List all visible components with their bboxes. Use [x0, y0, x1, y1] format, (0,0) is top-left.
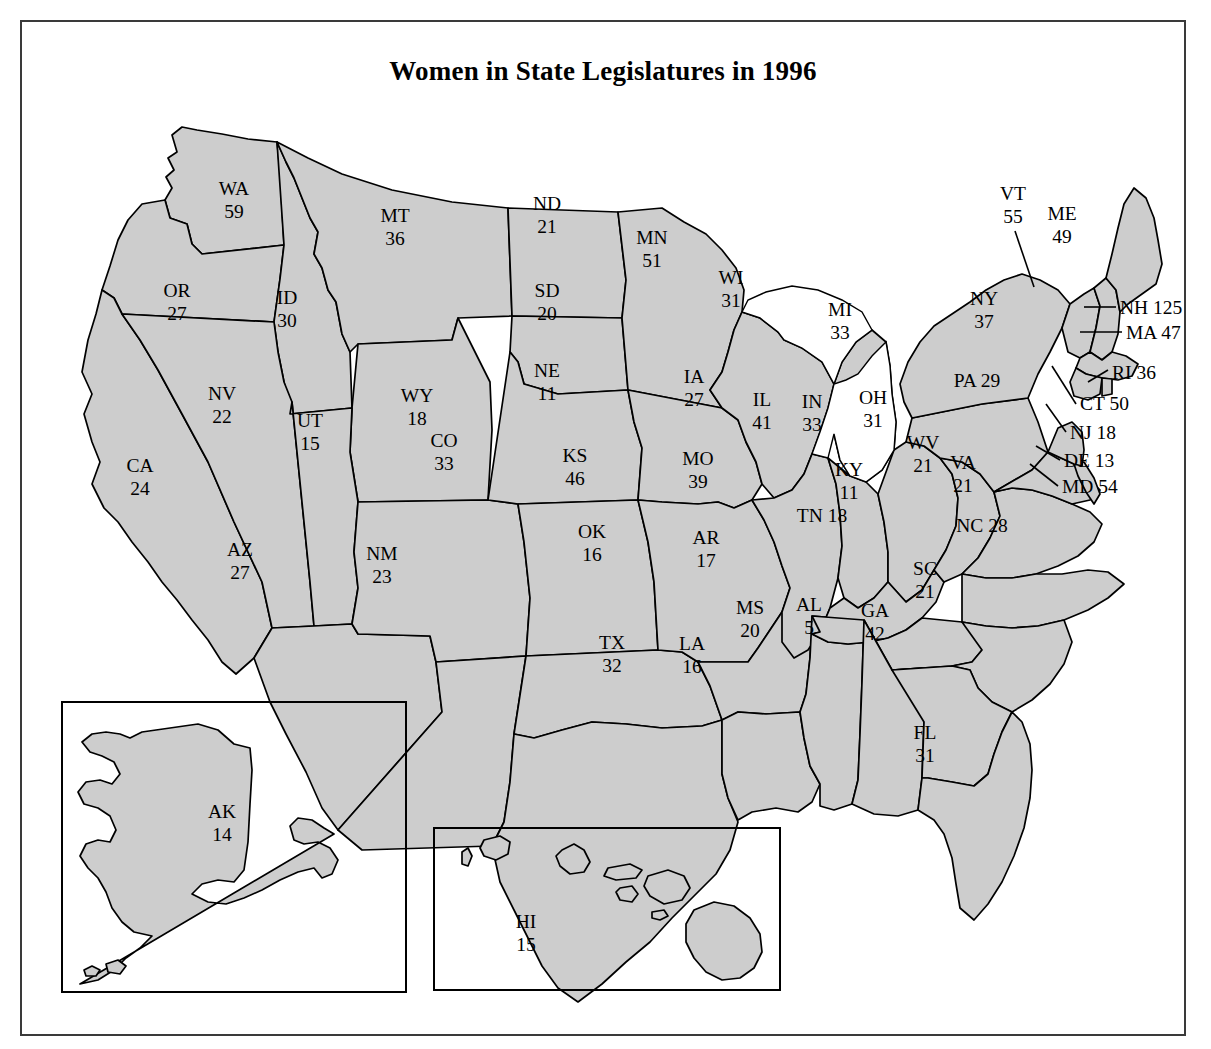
label-LA-code: LA — [679, 633, 705, 654]
label-NM-value: 23 — [372, 566, 392, 587]
label-OH-value: 31 — [863, 410, 883, 431]
label-MO-code: MO — [682, 448, 713, 469]
label-IN-code: IN — [802, 391, 823, 412]
label-CO-code: CO — [430, 430, 457, 451]
label-MT-value: 36 — [385, 228, 405, 249]
label-AR-code: AR — [692, 527, 719, 548]
label-IA-value: 27 — [684, 389, 704, 410]
label-MO-value: 39 — [688, 471, 708, 492]
state-AK[interactable] — [78, 724, 338, 984]
label-DE: DE 13 — [1064, 450, 1114, 471]
label-RI: RI 36 — [1112, 362, 1156, 383]
state-NC[interactable] — [962, 570, 1124, 628]
label-OR-code: OR — [163, 280, 190, 301]
label-NE-code: NE — [534, 360, 560, 381]
label-GA-code: GA — [861, 600, 889, 621]
label-CO-value: 33 — [434, 453, 454, 474]
island-hawaii — [686, 902, 762, 980]
label-KY-value: 11 — [840, 482, 859, 503]
label-SD-code: SD — [535, 280, 560, 301]
label-NM-code: NM — [366, 543, 397, 564]
label-FL-value: 31 — [915, 745, 935, 766]
label-AZ-code: AZ — [227, 539, 253, 560]
label-WA-code: WA — [219, 178, 249, 199]
label-CA-code: CA — [126, 455, 153, 476]
label-WY-code: WY — [401, 385, 434, 406]
label-CA-value: 24 — [130, 478, 150, 499]
label-LA-value: 16 — [682, 656, 702, 677]
label-FL-code: FL — [914, 722, 937, 743]
label-MN-value: 51 — [642, 250, 662, 271]
label-WY-value: 18 — [407, 408, 427, 429]
state-SD[interactable] — [510, 316, 628, 394]
label-NV-code: NV — [208, 383, 236, 404]
label-WA-value: 59 — [224, 201, 244, 222]
label-MS-value: 20 — [740, 620, 760, 641]
label-ID-code: ID — [277, 287, 298, 308]
state-ND[interactable] — [508, 208, 626, 318]
label-MN-code: MN — [636, 227, 667, 248]
label-MS-code: MS — [736, 597, 764, 618]
label-AL-code: AL — [796, 594, 822, 615]
island-niihau — [462, 848, 472, 866]
label-VA-code: VA — [950, 452, 976, 473]
label-OK-code: OK — [578, 521, 606, 542]
label-IA-code: IA — [684, 366, 705, 387]
label-UT-code: UT — [297, 410, 323, 431]
label-SC-code: SC — [913, 558, 937, 579]
label-MD: MD 54 — [1062, 476, 1118, 497]
label-UT-value: 15 — [300, 433, 320, 454]
label-MA: MA 47 — [1126, 322, 1181, 343]
label-WV-value: 21 — [913, 455, 933, 476]
label-AR-value: 17 — [696, 550, 716, 571]
island-lanai — [616, 886, 638, 902]
label-CT: CT 50 — [1080, 393, 1129, 414]
map-svg: WA 59 OR 27 CA 24 ID 30 NV 22 MT 36 WY 1… — [22, 22, 1188, 1038]
leader-NJ — [1046, 404, 1066, 432]
label-IL-value: 41 — [752, 412, 772, 433]
label-KS-value: 46 — [565, 468, 585, 489]
label-HI-code: HI — [516, 911, 537, 932]
label-MI-code: MI — [828, 299, 852, 320]
label-IL-code: IL — [753, 389, 771, 410]
label-NV-value: 22 — [212, 406, 232, 427]
label-WV-code: WV — [907, 432, 940, 453]
label-TX-value: 32 — [602, 655, 622, 676]
label-AK-code: AK — [208, 801, 236, 822]
label-OK-value: 16 — [582, 544, 602, 565]
label-GA-value: 42 — [865, 623, 885, 644]
label-SD-value: 20 — [537, 303, 557, 324]
label-ME-code: ME — [1047, 203, 1076, 224]
label-AK-value: 14 — [212, 824, 232, 845]
us-map: WA 59 OR 27 CA 24 ID 30 NV 22 MT 36 WY 1… — [22, 22, 1188, 1038]
label-MI-value: 33 — [830, 322, 850, 343]
label-OR-value: 27 — [167, 303, 187, 324]
label-IN-value: 33 — [802, 414, 822, 435]
label-VT-value: 55 — [1003, 206, 1023, 227]
label-SC-value: 21 — [915, 581, 935, 602]
label-NY-value: 37 — [974, 311, 994, 332]
label-MT-code: MT — [380, 205, 409, 226]
label-AL-value: 5 — [804, 617, 814, 638]
label-OH-code: OH — [859, 387, 887, 408]
label-WI-value: 31 — [721, 290, 741, 311]
label-TN: TN 18 — [797, 505, 847, 526]
label-ME-value: 49 — [1052, 226, 1072, 247]
label-HI-value: 15 — [516, 934, 536, 955]
label-NE-value: 11 — [538, 383, 557, 404]
label-NC: NC 28 — [956, 515, 1007, 536]
label-NJ: NJ 18 — [1070, 422, 1116, 443]
label-VT-code: VT — [1000, 183, 1026, 204]
label-PA: PA 29 — [954, 370, 1000, 391]
figure-frame: Women in State Legislatures in 1996 — [20, 20, 1186, 1036]
label-KS-code: KS — [563, 445, 588, 466]
label-ND-value: 21 — [537, 216, 557, 237]
label-WI-code: WI — [719, 267, 744, 288]
label-NH: NH 125 — [1120, 297, 1182, 318]
label-KY-code: KY — [835, 459, 863, 480]
label-NY-code: NY — [970, 288, 998, 309]
label-ID-value: 30 — [277, 310, 297, 331]
label-VA-value: 21 — [953, 475, 973, 496]
label-AZ-value: 27 — [230, 562, 250, 583]
label-ND-code: ND — [533, 193, 561, 214]
